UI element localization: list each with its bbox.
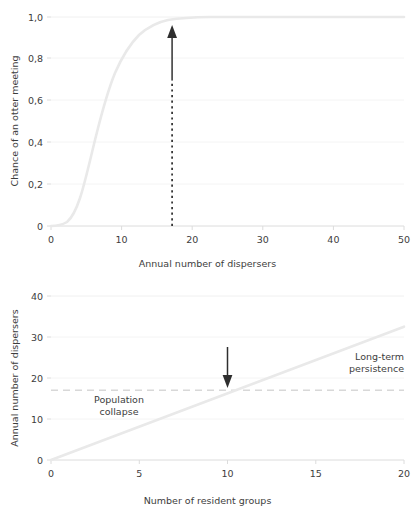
population-collapse-line1: Population (94, 394, 144, 405)
top-y-tick-label: 0,8 (28, 53, 43, 64)
top-x-tick-label: 50 (398, 234, 410, 245)
top-y-tick-label: 0,4 (28, 137, 43, 148)
long-term-persistence-annotation: Long-term persistence (349, 351, 404, 374)
bottom-y-axis-title: Annual number of dispersers (9, 309, 20, 446)
bottom-x-tick-label: 5 (136, 468, 142, 479)
otter-dispersal-figure: 1,0 0,8 0,6 0,4 0,2 0 0 10 20 30 40 50 C… (0, 0, 415, 510)
bottom-x-axis-title-wrap: Number of resident groups (0, 489, 415, 508)
top-chart-svg: 1,0 0,8 0,6 0,4 0,2 0 0 10 20 30 40 50 C… (0, 0, 415, 255)
top-y-tick-label: 0,6 (28, 95, 43, 106)
top-y-axis-title: Chance of an otter meeting (9, 55, 20, 186)
bottom-x-axis-title: Number of resident groups (144, 495, 272, 506)
long-term-persistence-line1: Long-term (355, 351, 404, 362)
bottom-x-tick-label: 0 (48, 468, 54, 479)
top-y-tick-label: 0,2 (28, 179, 43, 190)
top-y-tick-labels: 1,0 0,8 0,6 0,4 0,2 0 (28, 12, 43, 232)
top-x-tick-label: 30 (257, 234, 269, 245)
bottom-x-tick-label: 10 (221, 468, 233, 479)
long-term-persistence-line2: persistence (349, 363, 404, 374)
top-x-ticks (51, 226, 404, 230)
top-x-tick-label: 20 (186, 234, 198, 245)
bottom-chart-svg: 40 30 20 10 0 0 5 10 15 20 Population co… (0, 255, 415, 510)
bottom-x-tick-label: 15 (310, 468, 322, 479)
bottom-y-tick-labels: 40 30 20 10 0 (31, 291, 43, 466)
chart-panel-bottom: 40 30 20 10 0 0 5 10 15 20 Population co… (0, 255, 415, 510)
top-gridlines (51, 17, 404, 184)
top-threshold-arrow (167, 25, 177, 226)
bottom-collapse-arrow (223, 347, 233, 388)
bottom-x-tick-label: 20 (398, 468, 410, 479)
top-series-line (51, 17, 404, 226)
top-x-tick-label: 40 (327, 234, 339, 245)
top-threshold-arrowhead (167, 25, 177, 38)
bottom-y-tick-label: 10 (31, 414, 43, 425)
top-y-ticks (47, 17, 51, 226)
bottom-y-tick-label: 20 (31, 373, 43, 384)
top-x-tick-label: 10 (116, 234, 128, 245)
top-y-tick-label: 0 (37, 221, 43, 232)
bottom-collapse-arrowhead (223, 375, 233, 388)
top-y-tick-label: 1,0 (28, 12, 43, 23)
bottom-y-ticks (47, 296, 51, 460)
top-x-tick-labels: 0 10 20 30 40 50 (48, 234, 410, 245)
population-collapse-annotation: Population collapse (94, 394, 144, 417)
bottom-x-tick-labels: 0 5 10 15 20 (48, 468, 410, 479)
bottom-y-tick-label: 0 (37, 455, 43, 466)
chart-panel-top: 1,0 0,8 0,6 0,4 0,2 0 0 10 20 30 40 50 C… (0, 0, 415, 255)
bottom-x-ticks (51, 460, 404, 464)
bottom-y-tick-label: 40 (31, 291, 43, 302)
bottom-y-tick-label: 30 (31, 332, 43, 343)
top-x-tick-label: 0 (48, 234, 54, 245)
population-collapse-line2: collapse (100, 406, 139, 417)
